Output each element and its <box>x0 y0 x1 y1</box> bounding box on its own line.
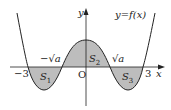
tick-label-neg3: −3 <box>14 69 29 79</box>
region-label-s1: S1 <box>40 72 51 85</box>
region-label-s2: S2 <box>89 54 100 67</box>
region-label-s3: S3 <box>122 72 133 85</box>
tick-label-neg-sqrt-a: −√a <box>40 54 61 64</box>
origin-label: O <box>78 70 86 80</box>
tick-label-sqrt-a: √a <box>112 54 124 64</box>
tick-label-3: 3 <box>145 69 151 79</box>
y-axis-label: y <box>78 8 84 18</box>
x-axis-label: x <box>156 69 162 79</box>
y-axis-arrow-icon <box>84 8 89 15</box>
function-label: y=f(x) <box>115 10 146 20</box>
